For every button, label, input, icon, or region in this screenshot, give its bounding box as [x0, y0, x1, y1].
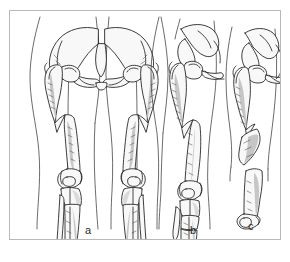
panel-a-left-femur-distal — [64, 115, 80, 172]
panel-caption-a: a — [85, 225, 91, 236]
panel-caption-b: b — [190, 225, 196, 236]
panel-caption-c: c — [248, 221, 254, 232]
panel-b-group — [151, 17, 224, 239]
panel-a-right-femur-distal — [123, 115, 139, 172]
figure-root: .sk { fill:#f8f8f8; stroke:#1b1b1b; stro… — [0, 0, 290, 262]
panel-c-group — [226, 27, 280, 229]
panel-a-pelvis — [49, 27, 153, 90]
panel-b-knee — [178, 181, 202, 218]
panel-a-left-femur-proximal — [45, 63, 65, 132]
fracture-illustration: .sk { fill:#f8f8f8; stroke:#1b1b1b; stro… — [10, 11, 280, 239]
panel-c-free-fragment — [239, 129, 260, 165]
figure-frame: .sk { fill:#f8f8f8; stroke:#1b1b1b; stro… — [9, 10, 281, 240]
panel-a-group — [30, 17, 168, 239]
